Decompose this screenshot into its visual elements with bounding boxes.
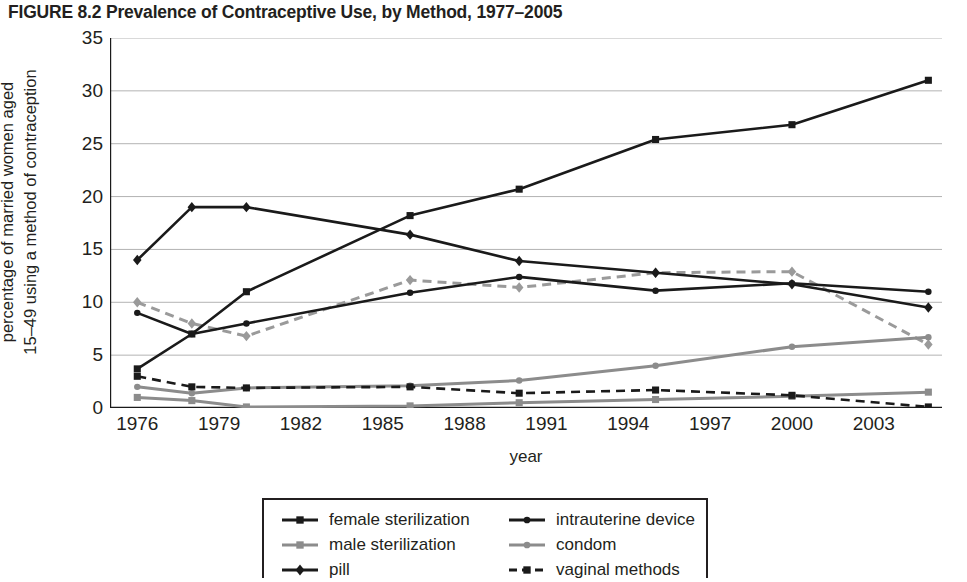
y-axis-tick-5: 5 (63, 345, 103, 364)
marker-circle (189, 390, 195, 396)
marker-circle (652, 287, 658, 293)
marker-square (243, 403, 250, 408)
y-axis-tick-0: 0 (63, 398, 103, 417)
x-axis-tick-2000: 2000 (757, 414, 827, 433)
marker-diamond (242, 202, 251, 212)
x-axis-label: year (110, 447, 942, 467)
legend-item-label: male sterilization (329, 535, 456, 555)
y-axis-tick-20: 20 (63, 187, 103, 206)
marker-diamond (788, 266, 797, 276)
marker-diamond (296, 564, 305, 575)
y-axis-tick-10: 10 (63, 292, 103, 311)
marker-circle (925, 334, 931, 340)
marker-square (407, 383, 414, 390)
legend-column-left: female sterilizationmale sterilizationpi… (280, 507, 470, 582)
marker-circle (243, 320, 249, 326)
legend-item-female-sterilization[interactable]: female sterilization (280, 507, 470, 532)
x-axis-tick-1988: 1988 (430, 414, 500, 433)
series-female-sterilization (134, 77, 932, 373)
series-pill (133, 202, 933, 313)
legend-item-label: female sterilization (329, 510, 470, 530)
legend-item-label: vaginal methods (556, 560, 680, 580)
marker-diamond (788, 279, 797, 289)
marker-diamond (133, 297, 142, 307)
plot-area (110, 38, 942, 408)
marker-square (925, 77, 932, 84)
marker-diamond (242, 331, 251, 341)
y-axis-label-line2: 15–49 using a method of contraception (19, 2, 42, 422)
page-title: FIGURE 8.2 Prevalence of Contraceptive U… (8, 2, 562, 23)
marker-square (925, 403, 932, 408)
x-axis-tick-1979: 1979 (184, 414, 254, 433)
marker-square (788, 121, 795, 128)
series-line (137, 272, 928, 345)
marker-square (296, 541, 303, 548)
marker-circle (516, 274, 522, 280)
marker-circle (524, 516, 531, 523)
y-axis-tick-labels: 05101520253035 (55, 38, 103, 408)
series-intrauterine-device (134, 274, 932, 338)
marker-square (188, 330, 195, 337)
marker-square (652, 386, 659, 393)
marker-square (134, 373, 141, 380)
x-axis-tick-1991: 1991 (511, 414, 581, 433)
legend-marker-diamond (280, 561, 320, 579)
x-axis-tick-1994: 1994 (593, 414, 663, 433)
series-line (137, 80, 928, 369)
marker-circle (789, 343, 795, 349)
marker-square (652, 136, 659, 143)
legend-marker-circle (507, 536, 547, 554)
x-axis-tick-1985: 1985 (348, 414, 418, 433)
legend-item-label: condom (556, 535, 616, 555)
marker-square (188, 397, 195, 404)
legend-item-label: intrauterine device (556, 510, 695, 530)
marker-diamond (924, 339, 933, 349)
marker-diamond (188, 318, 197, 328)
marker-square (516, 399, 523, 406)
marker-diamond (515, 256, 524, 266)
legend-marker-square (280, 536, 320, 554)
marker-square (516, 390, 523, 397)
marker-square (925, 389, 932, 396)
legend-item-condom[interactable]: condom (507, 532, 695, 557)
legend: female sterilizationmale sterilizationpi… (262, 498, 708, 578)
marker-diamond (651, 267, 660, 277)
y-axis-tick-15: 15 (63, 239, 103, 258)
marker-diamond (924, 302, 933, 312)
marker-square (523, 566, 530, 573)
legend-item-male-sterilization[interactable]: male sterilization (280, 532, 470, 557)
marker-square (407, 402, 414, 408)
marker-square (788, 392, 795, 399)
marker-circle (652, 362, 658, 368)
marker-circle (407, 290, 413, 296)
marker-square (296, 516, 303, 523)
legend-marker-square (280, 511, 320, 529)
marker-square (134, 365, 141, 372)
marker-diamond (406, 229, 415, 239)
marker-square (243, 288, 250, 295)
legend-item-intrauterine-device[interactable]: intrauterine device (507, 507, 695, 532)
marker-circle (524, 541, 531, 548)
x-axis-tick-1997: 1997 (675, 414, 745, 433)
legend-item-pill[interactable]: pill (280, 557, 470, 582)
legend-marker-circle (507, 511, 547, 529)
legend-item-label: pill (329, 560, 350, 580)
y-axis-tick-35: 35 (63, 28, 103, 47)
legend-column-right: intrauterine devicecondomvaginal methods (507, 507, 695, 582)
marker-circle (134, 384, 140, 390)
series-line (137, 392, 928, 407)
legend-item-vaginal-methods[interactable]: vaginal methods (507, 557, 695, 582)
marker-square (516, 186, 523, 193)
y-axis-tick-30: 30 (63, 81, 103, 100)
x-axis-tick-1982: 1982 (266, 414, 336, 433)
y-axis-label: percentage of married women aged 15–49 u… (0, 2, 42, 422)
chart-svg (110, 38, 942, 408)
marker-square (243, 384, 250, 391)
x-axis-tick-labels: 1976197919821985198819911994199720002003 (110, 414, 942, 440)
marker-square (652, 396, 659, 403)
marker-diamond (515, 282, 524, 292)
legend-marker-square (507, 561, 547, 579)
marker-circle (925, 288, 931, 294)
marker-diamond (406, 275, 415, 285)
x-axis-tick-2003: 2003 (839, 414, 909, 433)
